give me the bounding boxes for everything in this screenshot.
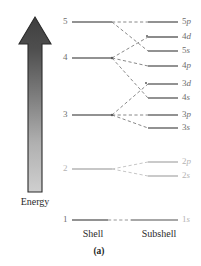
subshell-label-4s: 4s (182, 93, 190, 102)
connector-junction-dots (111, 35, 148, 116)
shell-label-1: 1 (63, 215, 68, 224)
junction-dot-crossing-upper (146, 35, 148, 37)
connector-4-to-4d (112, 37, 148, 58)
subshell-2s-orbital: s (187, 170, 191, 180)
shell-label-3: 3 (63, 110, 68, 119)
subshell-3d-orbital: d (187, 78, 192, 88)
subshell-4d-orbital: d (187, 31, 192, 41)
energy-axis-label: Energy (5, 196, 65, 207)
connector-4-to-4p (112, 58, 148, 66)
subshell-label-1s: 1s (182, 215, 190, 224)
figure-caption: (a) (78, 246, 120, 256)
subshell-label-2p: 2p (182, 157, 191, 166)
junction-dot-shell-4 (111, 57, 113, 59)
energy-arrow-icon (19, 17, 51, 192)
subshell-5s-orbital: s (187, 45, 191, 55)
shell-column-header: Shell (72, 228, 114, 239)
shell-label-4: 4 (63, 53, 68, 62)
subshell-2p-orbital: p (187, 156, 192, 166)
subshell-4p-orbital: p (187, 60, 192, 70)
energy-level-figure: 5 4 3 2 1 5p 4d 5s 4p 3d 4s 3p 3s 2p 2s … (0, 0, 201, 266)
connector-4-to-4s (112, 58, 148, 98)
connector-2-to-2p (112, 162, 148, 169)
connector-2-to-2s (112, 169, 148, 176)
subshell-label-4d: 4d (182, 32, 191, 41)
shell-label-5: 5 (63, 17, 68, 26)
subshell-5p-orbital: p (187, 16, 192, 26)
subshell-3p-orbital: p (187, 109, 192, 119)
subshell-label-5s: 5s (182, 46, 190, 55)
connector-3-to-3s (112, 115, 148, 128)
subshell-label-3d: 3d (182, 79, 191, 88)
shell-label-2: 2 (63, 164, 68, 173)
junction-dot-shell-3 (111, 114, 113, 116)
junction-dot-crossing-lower (145, 82, 147, 84)
shell-subshell-connectors (108, 22, 148, 220)
subshell-label-4p: 4p (182, 61, 191, 70)
connector-3-to-3d (112, 84, 148, 115)
subshell-level-lines (131, 22, 178, 220)
subshell-4s-orbital: s (187, 92, 191, 102)
subshell-column-header: Subshell (130, 228, 188, 239)
subshell-label-3s: 3s (182, 123, 190, 132)
energy-diagram-canvas (0, 0, 201, 266)
connector-5-to-5s (112, 22, 148, 51)
subshell-label-5p: 5p (182, 17, 191, 26)
subshell-3s-orbital: s (187, 122, 191, 132)
subshell-1s-orbital: s (187, 214, 191, 224)
subshell-label-3p: 3p (182, 110, 191, 119)
shell-level-lines (72, 22, 112, 220)
subshell-label-2s: 2s (182, 171, 190, 180)
